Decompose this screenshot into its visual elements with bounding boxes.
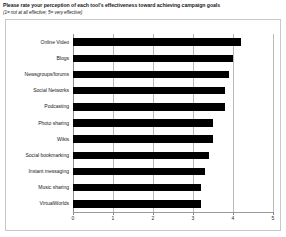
plot-area: [73, 34, 273, 212]
chart-title: Please rate your perception of each tool…: [3, 2, 283, 9]
bar-row: [73, 115, 273, 131]
bar: [73, 87, 225, 94]
category-label: Music sharing: [38, 184, 69, 191]
bar-row: [73, 180, 273, 196]
tick-label-0: 0: [72, 215, 75, 221]
bar-row: [73, 147, 273, 163]
chart-page: Please rate your perception of each tool…: [0, 0, 286, 237]
bar: [73, 55, 233, 62]
category-label: Newsgroups/forums: [25, 71, 69, 78]
bar: [73, 103, 225, 110]
axis-line: [73, 212, 273, 213]
bar-row: [73, 83, 273, 99]
category-label: Blogs: [57, 55, 70, 62]
bar-row: [73, 34, 273, 50]
bar: [73, 200, 201, 207]
tick-label-4: 4: [232, 215, 235, 221]
category-label: Instant messaging: [29, 168, 70, 175]
tick-label-2: 2: [152, 215, 155, 221]
bar-row: [73, 66, 273, 82]
gridline-5: [273, 34, 274, 212]
category-label: Photo sharing: [38, 120, 69, 127]
bar-row: [73, 196, 273, 212]
category-label: Wikis: [57, 136, 69, 143]
category-label: Social bookmarking: [25, 152, 69, 159]
bar-row: [73, 99, 273, 115]
tick-label-3: 3: [192, 215, 195, 221]
bar: [73, 152, 209, 159]
bar-row: [73, 131, 273, 147]
bar: [73, 168, 205, 175]
bar-series: [73, 34, 273, 212]
bar: [73, 184, 201, 191]
bar: [73, 71, 229, 78]
bar: [73, 38, 241, 45]
bar: [73, 119, 213, 126]
chart-frame: Online VideoBlogsNewsgroups/forumsSocial…: [5, 19, 281, 231]
category-label: Podcasting: [44, 103, 69, 110]
value-axis: 012345: [73, 212, 273, 228]
category-label: Online Video: [41, 39, 69, 46]
category-label: VirtualWorlds: [40, 200, 69, 207]
chart-subtitle: (1= not at all effective; 5= very effect…: [3, 10, 283, 16]
bar-row: [73, 50, 273, 66]
tick-label-5: 5: [272, 215, 275, 221]
bar: [73, 135, 213, 142]
bar-row: [73, 163, 273, 179]
category-axis-labels: Online VideoBlogsNewsgroups/forumsSocial…: [6, 34, 71, 212]
category-label: Social Networks: [33, 87, 69, 94]
tick-label-1: 1: [112, 215, 115, 221]
